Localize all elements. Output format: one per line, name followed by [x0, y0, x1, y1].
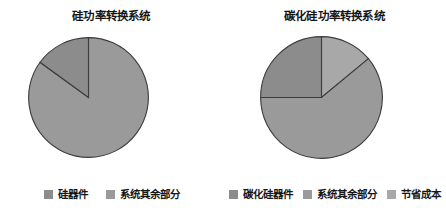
pie-chart-figure: 硅功率转换系统 硅器件 系统其余部分 碳化硅功率转换系统 — [0, 0, 446, 208]
legend-label-rest-of-system: 系统其余部分 — [317, 188, 377, 200]
chart-title-silicon: 硅功率转换系统 — [0, 8, 223, 24]
legend-item-cost-savings[interactable]: 节省成本 — [387, 188, 441, 200]
legend-label-sic-device: 碳化硅器件 — [243, 188, 293, 200]
legend-silicon: 硅器件 系统其余部分 — [0, 188, 223, 200]
legend-swatch-cost-savings — [387, 190, 396, 199]
legend-swatch-silicon-device — [44, 190, 53, 199]
legend-sic: 碳化硅器件 系统其余部分 节省成本 — [223, 188, 446, 200]
legend-item-rest-of-system[interactable]: 系统其余部分 — [303, 188, 377, 200]
pie-chart-sic — [260, 36, 383, 159]
legend-label-silicon-device: 硅器件 — [58, 188, 88, 200]
legend-swatch-rest-of-system — [106, 190, 115, 199]
pie-chart-silicon — [28, 37, 149, 158]
panel-sic-power-system: 碳化硅功率转换系统 碳化硅器件 系统其余部分 节省成本 — [223, 0, 446, 208]
pie-slice-cost-savings[interactable] — [261, 37, 322, 98]
legend-swatch-rest-of-system — [303, 190, 312, 199]
legend-label-rest-of-system: 系统其余部分 — [120, 188, 180, 200]
legend-swatch-sic-device — [229, 190, 238, 199]
legend-item-rest-of-system[interactable]: 系统其余部分 — [106, 188, 180, 200]
legend-item-silicon-device[interactable]: 硅器件 — [44, 188, 88, 200]
chart-title-sic: 碳化硅功率转换系统 — [223, 8, 446, 24]
panel-silicon-power-system: 硅功率转换系统 硅器件 系统其余部分 — [0, 0, 223, 208]
pie-svg-silicon — [28, 37, 149, 158]
pie-svg-sic — [260, 36, 383, 159]
legend-item-sic-device[interactable]: 碳化硅器件 — [229, 188, 293, 200]
legend-label-cost-savings: 节省成本 — [401, 188, 441, 200]
